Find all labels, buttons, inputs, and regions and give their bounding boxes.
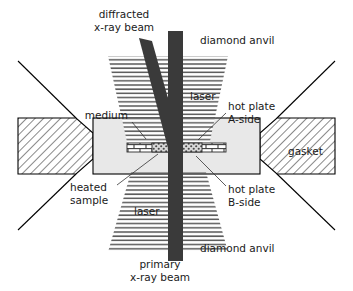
label-diffracted-beam-line2: x-ray beam — [94, 21, 154, 33]
label-heated-sample-line1: heated — [70, 181, 107, 193]
gasket-left-hatched-block — [18, 118, 93, 174]
label-primary-beam-line2: x-ray beam — [130, 271, 190, 283]
diamond-anvil-edge-top-left — [18, 61, 76, 118]
label-diamond-anvil-bottom: diamond anvil — [200, 242, 274, 254]
label-primary-beam-line1: primary — [139, 258, 180, 270]
diamond-anvil-edge-bottom-right — [277, 174, 335, 230]
label-gasket: gasket — [288, 145, 323, 157]
label-laser-top: laser — [190, 90, 216, 102]
primary-x-ray-beam-vertical — [168, 31, 183, 261]
label-laser-bottom: laser — [134, 205, 160, 217]
label-diamond-anvil-top: diamond anvil — [200, 34, 274, 46]
label-hot-plate-a-line1: hot plate — [228, 100, 275, 112]
label-diffracted-beam-line1: diffracted — [99, 8, 150, 20]
diamond-anvil-edge-bottom-left — [18, 174, 76, 230]
diamond-anvil-edge-top-right — [277, 61, 335, 118]
diagram-figure: diffracted x-ray beam diamond anvil lase… — [0, 0, 353, 291]
label-medium: medium — [85, 109, 128, 121]
label-hot-plate-b-line2: B-side — [228, 196, 261, 208]
label-heated-sample-line2: sample — [70, 194, 108, 206]
label-hot-plate-b-line1: hot plate — [228, 183, 275, 195]
diagram-canvas: diffracted x-ray beam diamond anvil lase… — [0, 0, 353, 291]
label-hot-plate-a-line2: A-side — [228, 113, 260, 125]
